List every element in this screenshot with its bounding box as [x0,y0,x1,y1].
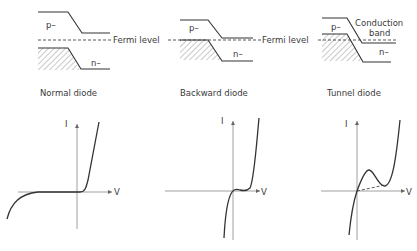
x-axis-label: V [261,187,267,197]
band-diagram-backward: p– n– Fermi level [168,20,309,61]
fermi-level-label: Fermi level [262,35,309,45]
n-label: n– [379,47,389,57]
iv-plot-tunnel: I V [321,119,412,240]
p-label: p– [46,20,56,30]
y-axis-label: I [221,116,224,126]
n-label: n– [91,58,101,68]
diode-comparison-diagram: p– n– Fermi level p– n– Fermi level p– n… [0,0,417,251]
iv-curve [224,118,259,238]
p-label: p– [331,22,341,32]
iv-curve [7,122,99,219]
caption-backward-diode: Backward diode [180,88,248,98]
caption-normal-diode: Normal diode [40,88,97,98]
fermi-level-label: Fermi level [113,35,160,45]
caption-tunnel-diode: Tunnel diode [326,88,381,98]
x-axis-label: V [114,187,120,197]
conduction-band-label-line2: band [369,28,390,38]
y-axis-label: I [345,119,348,129]
p-label: p– [189,23,199,33]
band-diagram-tunnel: p– n– Conduction band [318,18,403,62]
n-label: n– [233,49,243,59]
y-axis-label: I [65,119,68,129]
valence-band-fill [38,48,80,70]
excess-current-dashed-line [357,185,385,191]
x-axis-label: V [406,187,412,197]
band-diagram-normal: p– n– Fermi level [38,12,160,70]
conduction-band-label-line1: Conduction [355,18,403,28]
iv-plot-normal: I V [7,119,120,229]
iv-plot-backward: I V [165,116,267,240]
valence-band-fill [322,34,362,61]
